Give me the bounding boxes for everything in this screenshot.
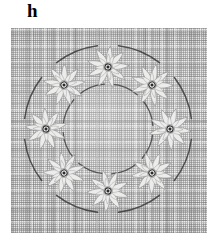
wreath-outer-arc [174,78,191,119]
wreath-inner-arc [63,133,74,159]
rosette-top-right [123,56,181,114]
wreath-outer-arc [174,140,191,181]
wreath-inner-arc [142,133,153,159]
wreath-outer-arc [25,140,42,181]
wreath-rosettes [21,42,195,216]
wreath-outer-arc [57,195,98,212]
wreath-inner-arc [79,163,105,174]
rosette-left [21,104,71,154]
floral-wreath [11,28,207,233]
wreath-inner-arc [112,163,138,174]
rosette-bottom-left [35,144,93,202]
panel-label: h [27,1,38,20]
wreath-outer-arc [57,46,98,63]
wreath-inner-arc [142,100,153,126]
wreath-inner-arc [63,100,74,126]
wreath-inner-arc-segments [63,84,153,174]
rosette-bottom [83,166,133,216]
figure-panel-h: h [0,0,218,240]
rosette-top [83,42,133,92]
wreath-outer-arc [25,78,42,119]
rosette-right [145,104,195,154]
wreath-inner-arc [79,84,105,95]
rosette-top-left [35,56,93,114]
wreath-outer-arc [119,46,160,63]
wreath-outer-arc [119,195,160,212]
rosette-bottom-right [123,144,181,202]
textile-panel [11,28,207,233]
wreath-inner-arc [112,84,138,95]
